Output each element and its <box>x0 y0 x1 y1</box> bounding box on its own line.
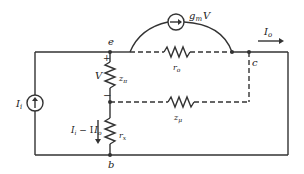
circuit-diagram: e c b + − V zπ rx ro zμ gmV Io Ii Ii − I… <box>0 0 304 174</box>
label-rx: rx <box>119 131 127 141</box>
label-branch-current: Ii − IIo <box>70 125 102 136</box>
label-ro: ro <box>173 63 181 73</box>
label-output-current: Io <box>263 26 272 39</box>
wire-arc-right <box>184 22 232 52</box>
branch-arrow-head-icon <box>95 139 101 144</box>
label-node-e: e <box>108 36 114 47</box>
arrow-head-icon <box>178 19 182 25</box>
label-gmV: gmV <box>189 10 212 23</box>
resistor-zmu <box>168 97 194 107</box>
wire-arc-left <box>130 22 168 52</box>
output-arrow-head-icon <box>279 38 284 44</box>
node-junction <box>230 50 234 54</box>
label-minus: − <box>103 90 111 101</box>
resistor-zpi <box>105 62 115 88</box>
label-plus: + <box>103 53 111 63</box>
label-node-b: b <box>108 159 114 170</box>
resistor-ro <box>164 47 190 57</box>
label-zpi: zπ <box>118 74 128 84</box>
label-node-c: c <box>252 57 258 68</box>
label-zmu: zμ <box>173 113 182 124</box>
resistor-rx <box>105 118 115 144</box>
label-source-current: Ii <box>15 98 22 111</box>
label-voltage: V <box>95 70 104 81</box>
